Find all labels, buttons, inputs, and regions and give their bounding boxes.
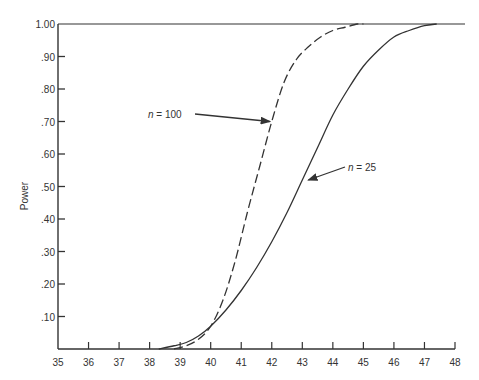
y-tick-label: .10 (41, 312, 55, 323)
x-tick-label: 36 (83, 357, 95, 368)
y-tick-label: 1.00 (36, 19, 56, 30)
y-tick-label: .90 (41, 52, 55, 63)
annotation-arrow (308, 167, 345, 180)
axes (58, 24, 465, 349)
x-tick-label: 43 (297, 357, 309, 368)
x-tick-label: 41 (236, 357, 248, 368)
annotation-n100-label: n = 100 (148, 109, 182, 120)
x-tick-label: 44 (327, 357, 339, 368)
x-tick-label: 39 (175, 357, 187, 368)
series-lines (159, 24, 437, 349)
annotation-n25-label: n = 25 (348, 162, 377, 173)
y-axis-label: Power (19, 181, 30, 210)
annotation-arrow (195, 114, 270, 122)
series-n100-line (174, 24, 363, 349)
y-tick-label: .20 (41, 279, 55, 290)
series-n25-line (159, 24, 437, 349)
y-tick-label: .30 (41, 247, 55, 258)
y-tick-label: .50 (41, 182, 55, 193)
x-axis-ticks: 3536373839404142434445464748 (52, 342, 461, 368)
x-tick-label: 37 (114, 357, 126, 368)
x-tick-label: 38 (144, 357, 156, 368)
y-axis-ticks: .10.20.30.40.50.60.70.80.901.00 (36, 19, 65, 323)
power-curve-chart: .10.20.30.40.50.60.70.80.901.00 35363738… (0, 0, 479, 380)
y-tick-label: .40 (41, 214, 55, 225)
annotations: n = 100n = 25 (148, 109, 377, 180)
x-tick-label: 47 (419, 357, 431, 368)
y-tick-label: .80 (41, 84, 55, 95)
y-tick-label: .70 (41, 117, 55, 128)
x-tick-label: 48 (449, 357, 461, 368)
y-tick-label: .60 (41, 149, 55, 160)
x-tick-label: 46 (388, 357, 400, 368)
x-tick-label: 45 (358, 357, 370, 368)
x-tick-label: 40 (205, 357, 217, 368)
x-tick-label: 42 (266, 357, 278, 368)
x-tick-label: 35 (52, 357, 64, 368)
